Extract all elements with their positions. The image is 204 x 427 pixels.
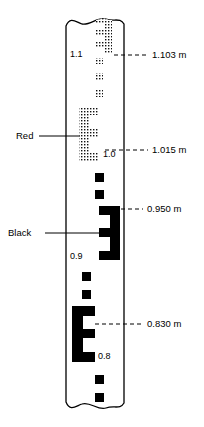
black-mark-spine-upper [110, 206, 120, 260]
red-mark-tooth-bottom-3 [88, 152, 99, 161]
black-mark-tooth-lower-3 [82, 352, 95, 362]
figure-canvas: 1.1 1.0 0.9 0.8 Red Black 1.103 m 1.015 … [0, 0, 204, 427]
staff-graduation-1-1: 1.1 [70, 50, 83, 59]
black-mark-square-4 [82, 290, 91, 299]
black-mark-tooth-lower-1 [82, 306, 95, 316]
red-mark-tooth-bottom-2 [88, 129, 99, 137]
reading-label-0950: 0.950 m [147, 204, 181, 214]
red-mark-spine-top [104, 18, 112, 54]
red-mark-tooth-bottom-1 [88, 107, 99, 115]
black-mark-tooth-lower-2 [82, 329, 95, 338]
reading-label-0830: 0.830 m [147, 319, 181, 329]
red-mark-tooth-top-2 [96, 30, 105, 36]
black-mark-square-1 [95, 173, 104, 182]
black-mark-tooth-upper-1 [99, 206, 111, 215]
black-mark-square-6 [95, 393, 104, 402]
red-mark-tooth-top-1 [96, 18, 105, 24]
red-mark-square-3 [96, 90, 103, 97]
annotation-label-black: Black [8, 228, 31, 238]
reading-label-1015: 1.015 m [152, 145, 186, 155]
black-mark-square-2 [95, 190, 104, 199]
red-mark-square-1 [96, 58, 103, 64]
black-mark-square-5 [95, 375, 104, 384]
red-mark-tooth-top-3 [96, 42, 105, 48]
staff-graduation-0-9: 0.9 [70, 252, 83, 261]
red-mark-spine-bottom [79, 107, 89, 161]
staff-graduation-1-0: 1.0 [103, 150, 116, 159]
reading-label-1103: 1.103 m [152, 50, 186, 60]
red-mark-square-2 [96, 73, 103, 80]
black-mark-spine-lower [72, 306, 83, 362]
black-mark-tooth-upper-3 [99, 251, 111, 260]
black-mark-square-3 [82, 272, 91, 281]
annotation-label-red: Red [16, 131, 33, 141]
staff-graduation-0-8: 0.8 [98, 352, 111, 361]
